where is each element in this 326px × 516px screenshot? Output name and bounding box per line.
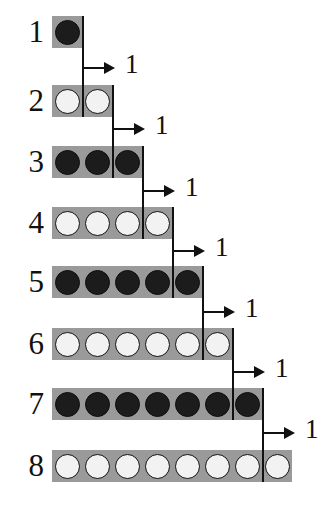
disc-cell (172, 450, 202, 482)
row-index-label-2: 2 (14, 85, 44, 116)
light-disc-icon (235, 454, 260, 479)
disc-cell (82, 266, 112, 298)
increment-arrow-1 (82, 67, 118, 69)
light-disc-icon (85, 211, 110, 236)
increment-value-label-5: 1 (245, 295, 259, 322)
dark-disc-icon (85, 270, 110, 295)
disc-cell (142, 388, 172, 420)
disc-staircase-figure: 123456781111111 (0, 0, 326, 516)
connector-line-4-to-5 (172, 207, 174, 298)
disc-row-6 (52, 328, 232, 360)
light-disc-icon (145, 211, 170, 236)
increment-value-label-4: 1 (215, 234, 229, 261)
light-disc-icon (175, 332, 200, 357)
disc-row-4 (52, 207, 172, 239)
disc-cell (112, 146, 142, 178)
disc-cell (172, 266, 202, 298)
increment-arrow-3 (142, 190, 178, 192)
light-disc-icon (55, 211, 80, 236)
increment-value-label-1: 1 (125, 51, 139, 78)
light-disc-icon (55, 454, 80, 479)
arrow-head-icon (164, 185, 175, 197)
dark-disc-icon (55, 20, 80, 45)
arrow-head-icon (254, 366, 265, 378)
disc-cell (112, 328, 142, 360)
row-index-label-4: 4 (14, 207, 44, 238)
dark-disc-icon (85, 150, 110, 175)
disc-cell (52, 146, 82, 178)
disc-cell (82, 450, 112, 482)
disc-cell (262, 450, 292, 482)
row-index-label-1: 1 (14, 16, 44, 47)
light-disc-icon (145, 332, 170, 357)
disc-cell (202, 388, 232, 420)
disc-cell (52, 207, 82, 239)
row-index-label-7: 7 (14, 388, 44, 419)
increment-arrow-7 (262, 432, 298, 434)
disc-cell (82, 207, 112, 239)
dark-disc-icon (115, 150, 140, 175)
disc-cell (82, 328, 112, 360)
disc-cell (172, 328, 202, 360)
disc-cell (52, 388, 82, 420)
dark-disc-icon (175, 270, 200, 295)
disc-cell (112, 450, 142, 482)
increment-value-label-6: 1 (275, 355, 289, 382)
light-disc-icon (205, 454, 230, 479)
light-disc-icon (85, 89, 110, 114)
row-index-label-5: 5 (14, 266, 44, 297)
increment-value-label-3: 1 (185, 174, 199, 201)
disc-row-5 (52, 266, 202, 298)
increment-arrow-6 (232, 371, 268, 373)
light-disc-icon (55, 332, 80, 357)
arrow-head-icon (134, 123, 145, 135)
dark-disc-icon (235, 392, 260, 417)
disc-cell (52, 450, 82, 482)
arrow-head-icon (104, 62, 115, 74)
dark-disc-icon (145, 270, 170, 295)
disc-cell (52, 85, 82, 117)
increment-arrow-2 (112, 128, 148, 130)
light-disc-icon (115, 454, 140, 479)
connector-line-6-to-7 (232, 328, 234, 420)
light-disc-icon (145, 454, 170, 479)
disc-row-1 (52, 16, 82, 48)
arrow-head-icon (284, 427, 295, 439)
disc-cell (142, 450, 172, 482)
light-disc-icon (115, 332, 140, 357)
disc-cell (52, 266, 82, 298)
disc-cell (202, 450, 232, 482)
disc-cell (112, 266, 142, 298)
row-index-label-6: 6 (14, 328, 44, 359)
light-disc-icon (85, 332, 110, 357)
disc-cell (232, 388, 262, 420)
row-index-label-8: 8 (14, 450, 44, 481)
disc-cell (82, 85, 112, 117)
disc-cell (52, 16, 82, 48)
row-index-label-3: 3 (14, 146, 44, 177)
arrow-head-icon (194, 245, 205, 257)
connector-line-2-to-3 (112, 85, 114, 178)
light-disc-icon (265, 454, 290, 479)
disc-cell (82, 146, 112, 178)
light-disc-icon (115, 211, 140, 236)
disc-row-7 (52, 388, 262, 420)
light-disc-icon (55, 89, 80, 114)
light-disc-icon (175, 454, 200, 479)
disc-cell (142, 207, 172, 239)
connector-line-3-to-4 (142, 146, 144, 239)
disc-cell (142, 328, 172, 360)
dark-disc-icon (55, 150, 80, 175)
arrow-head-icon (224, 306, 235, 318)
dark-disc-icon (55, 392, 80, 417)
connector-line-7-to-8 (262, 388, 264, 482)
disc-cell (82, 388, 112, 420)
increment-arrow-5 (202, 311, 238, 313)
dark-disc-icon (85, 392, 110, 417)
dark-disc-icon (115, 392, 140, 417)
connector-line-5-to-6 (202, 266, 204, 360)
disc-cell (172, 388, 202, 420)
dark-disc-icon (55, 270, 80, 295)
disc-row-8 (52, 450, 292, 482)
increment-value-label-2: 1 (155, 112, 169, 139)
